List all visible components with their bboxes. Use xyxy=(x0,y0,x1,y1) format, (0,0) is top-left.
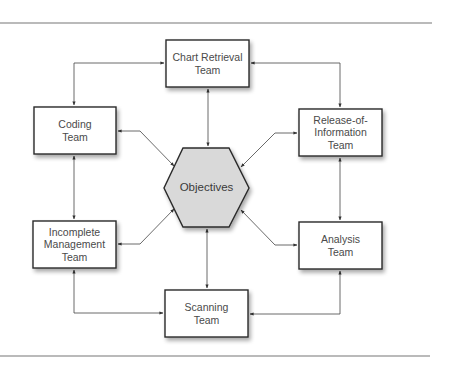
node-scanning xyxy=(165,290,248,337)
node-chart-retrieval xyxy=(166,40,249,87)
team-objectives-diagram xyxy=(0,0,450,367)
connector-chart-release xyxy=(251,63,340,107)
connector-incomplete-objectives xyxy=(118,209,174,244)
connector-release-objectives xyxy=(241,133,297,167)
connector-analysis-scanning xyxy=(250,271,340,314)
connector-analysis-objectives xyxy=(241,210,297,245)
node-coding xyxy=(34,107,116,154)
connector-incomplete-scanning xyxy=(74,270,163,313)
hub-objectives xyxy=(164,148,249,227)
node-incomplete-management xyxy=(33,221,116,268)
node-release-of-information xyxy=(299,109,382,156)
connector-coding-objectives xyxy=(118,131,174,166)
connector-chart-coding xyxy=(74,63,164,105)
node-analysis xyxy=(299,222,382,269)
